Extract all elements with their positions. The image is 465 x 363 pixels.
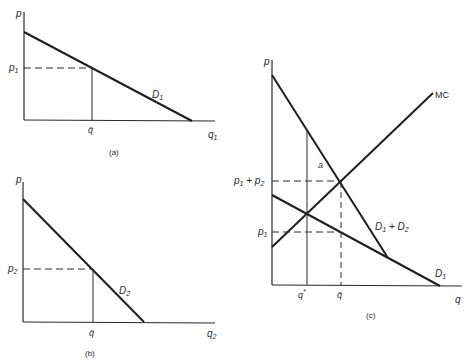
panel-c: p MC a p1 + p2 p1 D1 + D2 D1 q* q̄ q (c): [233, 56, 462, 320]
panel-a-x-axis-label: q1: [208, 129, 218, 141]
panel-c-caption: (c): [366, 311, 376, 320]
panel-c-y-axis-label: p: [263, 56, 270, 67]
panel-a-demand-curve-d1: [24, 32, 192, 121]
panel-a-caption: (a): [109, 148, 119, 157]
panel-a-qbar-label: q̄: [88, 125, 93, 135]
panel-c-x-axis: [272, 285, 462, 286]
panel-b-x-axis-label: q2: [207, 328, 217, 340]
panel-c-qbar-label: q̄: [337, 290, 342, 300]
panel-b-qbar-label: q̄: [89, 328, 94, 338]
panel-c-area-label: a: [318, 160, 323, 170]
panel-c-aggregate-demand-label: D1 + D2: [375, 221, 409, 233]
panel-b-price-label: p2: [7, 263, 18, 275]
demand-supply-diagrams: p p1 D1 q̄ q1 (a) p p2 D2 q̄ q2 (b): [0, 0, 465, 363]
panel-a-curve-label: D1: [152, 89, 163, 101]
diagram-canvas: p p1 D1 q̄ q1 (a) p p2 D2 q̄ q2 (b): [0, 0, 465, 363]
panel-b-demand-curve-d2: [23, 199, 144, 322]
panel-b: p p2 D2 q̄ q2 (b): [7, 174, 217, 358]
panel-c-sum-price-label: p1 + p2: [233, 175, 264, 187]
panel-a-x-axis: [24, 120, 215, 121]
panel-b-x-axis: [23, 322, 215, 323]
panel-a: p p1 D1 q̄ q1 (a): [8, 8, 218, 157]
panel-a-price-label: p1: [8, 62, 19, 74]
panel-b-caption: (b): [85, 349, 95, 358]
panel-a-y-axis-label: p: [15, 8, 22, 19]
panel-c-d1-label: D1: [435, 268, 446, 280]
panel-b-y-axis-label: p: [15, 174, 22, 185]
panel-c-mc-label: MC: [435, 90, 449, 100]
panel-b-curve-label: D2: [119, 285, 130, 297]
panel-c-p1-label: p1: [257, 226, 268, 238]
panel-c-x-axis-label: q: [455, 294, 461, 305]
panel-c-qstar-label: q*: [298, 288, 306, 300]
panel-c-marginal-cost-curve: [272, 93, 433, 247]
